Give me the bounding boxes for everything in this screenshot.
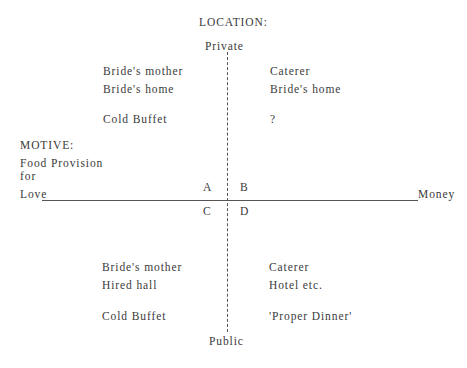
horizontal-axis (42, 200, 418, 201)
quadrant-c-provider: Bride's mother (102, 261, 182, 274)
axis-label-love: Love (20, 188, 47, 201)
quadrant-b-location: Bride's home (270, 83, 341, 96)
axis-label-private: Private (205, 40, 244, 53)
quadrant-a-location: Bride's home (103, 83, 174, 96)
quadrant-c-location: Hired hall (102, 279, 157, 292)
quadrant-a-provider: Bride's mother (103, 65, 183, 78)
quadrant-label-a: A (203, 181, 212, 194)
quadrant-label-d: D (240, 205, 249, 218)
quadrant-b-food: ? (270, 113, 276, 126)
quadrant-c-food: Cold Buffet (102, 310, 166, 323)
quadrant-label-c: C (203, 205, 212, 218)
quadrant-d-provider: Caterer (269, 261, 309, 274)
quadrant-d-location: Hotel etc. (269, 279, 323, 292)
motive-line1: Food Provision (20, 157, 103, 170)
location-heading: LOCATION: (199, 16, 268, 29)
vertical-axis (227, 52, 228, 332)
axis-label-public: Public (209, 335, 244, 348)
quadrant-d-food: 'Proper Dinner' (269, 310, 352, 323)
quadrant-a-food: Cold Buffet (103, 113, 167, 126)
quadrant-b-provider: Caterer (270, 65, 310, 78)
motive-heading: MOTIVE: (20, 139, 74, 152)
axis-label-money: Money (418, 188, 455, 201)
motive-line2: for (20, 170, 36, 183)
quadrant-label-b: B (240, 181, 249, 194)
